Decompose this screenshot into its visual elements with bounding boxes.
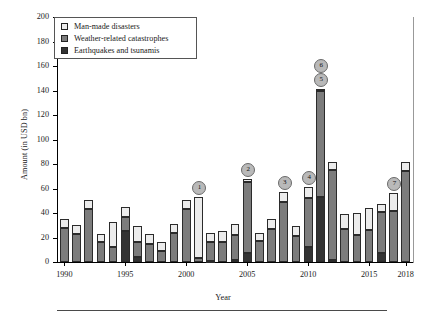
bar-segment-earthquakes [316,197,325,262]
bar-segment-man-made [109,222,118,248]
bar-segment-earthquakes [328,260,337,262]
annotation-bubble-1: 1 [192,181,206,195]
y-tick-label: 100 [15,136,49,144]
bar-segment-earthquakes [304,247,313,262]
legend-label-weather: Weather-related catastrophes [74,34,168,43]
bar-segment-man-made [353,213,362,235]
y-tick-mark [53,115,57,116]
chart-figure: Amount (in USD bn) Year 0204060801001201… [0,0,446,318]
bar-segment-man-made [145,234,154,244]
x-tick-mark [247,262,248,266]
bar-segment-earthquakes [231,260,240,262]
x-tick-label: 1990 [44,271,84,279]
x-tick-label: 2010 [288,271,328,279]
x-tick-label: 2005 [227,271,267,279]
legend-label-man-made: Man-made disasters [74,22,140,31]
y-tick-label: 160 [15,62,49,70]
x-axis-title: Year [0,293,446,302]
bar-segment-weather [365,230,374,262]
annotation-bubble-3: 3 [278,176,292,190]
annotation-bubble-5: 5 [314,73,328,87]
bar-segment-man-made [97,234,106,243]
y-tick-label: 0 [15,258,49,266]
x-tick-mark [308,262,309,266]
y-tick-mark [53,238,57,239]
y-tick-label: 20 [15,234,49,242]
y-tick-mark [53,140,57,141]
annotation-bubble-7: 7 [387,177,401,191]
bar-segment-man-made [218,231,227,242]
x-tick-mark [125,262,126,266]
bar-segment-weather [255,241,264,262]
bar-segment-earthquakes [243,253,252,262]
bar-segment-weather [267,229,276,262]
x-tick-mark [64,262,65,266]
legend-swatch-man-made-icon [61,23,68,30]
right-frame-line [413,17,414,263]
bar-segment-weather [316,91,325,198]
bar-segment-weather [353,235,362,262]
y-tick-mark [53,189,57,190]
bar-segment-man-made [279,192,288,202]
x-tick-label: 2018 [386,271,426,279]
bar-segment-weather [340,229,349,262]
bar-segment-man-made [267,219,276,229]
y-tick-label: 120 [15,111,49,119]
x-tick-label: 2000 [166,271,206,279]
y-tick-label: 140 [15,87,49,95]
bar-segment-man-made [328,162,337,171]
bar-segment-man-made [84,200,93,210]
bar-segment-man-made [365,208,374,230]
bar-segment-earthquakes [377,253,386,262]
bar-segment-weather [377,212,386,254]
bar-segment-earthquakes [121,231,130,262]
y-tick-mark [53,164,57,165]
y-tick-label: 80 [15,160,49,168]
bar-segment-weather [194,258,203,262]
x-axis-line [57,262,413,263]
y-tick-label: 180 [15,38,49,46]
bar-segment-man-made [231,224,240,235]
y-tick-mark [53,66,57,67]
legend-swatch-earthquakes-icon [61,47,68,54]
bar-segment-weather [145,244,154,262]
bar-segment-man-made [401,162,410,172]
bar-segment-man-made [206,233,215,243]
x-tick-mark [406,262,407,266]
legend-item-weather: Weather-related catastrophes [61,33,168,44]
legend-item-man-made: Man-made disasters [61,21,140,32]
bottom-divider [57,310,387,311]
bar-segment-man-made [255,233,264,242]
bar-segment-weather [304,198,313,247]
bar-segment-man-made [292,226,301,236]
bar-segment-man-made [377,204,386,211]
bar-segment-man-made [340,214,349,229]
bar-segment-man-made [60,219,69,228]
bar-segment-man-made [170,224,179,233]
bar-segment-earthquakes [206,261,215,263]
y-tick-mark [53,91,57,92]
y-tick-label: 40 [15,209,49,217]
x-tick-label: 1995 [105,271,145,279]
bar-segment-man-made [157,242,166,251]
bar-segment-weather [243,182,252,253]
y-tick-label: 60 [15,185,49,193]
bar-segment-man-made [194,197,203,258]
bar-segment-weather [401,171,410,262]
y-tick-mark [53,262,57,263]
bar-segment-weather [121,217,130,232]
x-tick-mark [186,262,187,266]
bar-segment-man-made [133,226,142,242]
bar-segment-man-made [304,187,313,198]
legend-swatch-weather-icon [61,35,68,42]
annotation-bubble-4: 4 [302,171,316,185]
bar-segment-earthquakes [133,257,142,262]
bar-segment-weather [231,235,240,260]
bar-segment-weather [292,236,301,262]
y-tick-mark [53,213,57,214]
bar-segment-weather [84,209,93,262]
bar-segment-man-made [121,207,130,217]
bar-segment-weather [170,233,179,262]
bar-segment-man-made [72,225,81,234]
bar-segment-weather [279,202,288,262]
